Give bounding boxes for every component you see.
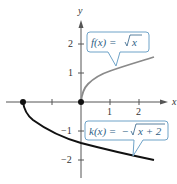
y-tick-label-neg1: −1	[61, 125, 72, 136]
f-callout-var: x	[131, 36, 137, 48]
k-endpoint-marker	[20, 99, 26, 105]
f-curve	[81, 57, 154, 102]
graph: x y 1 2 2 1 −1 −2 f(x) = x k(x) = − x + …	[0, 0, 177, 184]
x-tick-label-2: 2	[136, 106, 141, 117]
y-tick-label-1: 1	[68, 67, 73, 78]
y-tick-label-neg2: −2	[61, 154, 72, 165]
x-axis-arrow-icon	[160, 100, 168, 105]
y-axis-label: y	[77, 5, 83, 16]
k-callout-minus: −	[122, 125, 128, 137]
f-endpoint-marker	[78, 99, 84, 105]
y-tick-label-2: 2	[68, 38, 73, 49]
x-axis-label: x	[171, 96, 177, 107]
k-callout-label: k(x) =	[89, 125, 116, 138]
k-callout-var: x + 2	[137, 125, 162, 137]
k-callout: k(x) = − x + 2	[85, 121, 168, 156]
x-tick-label-1: 1	[107, 106, 112, 117]
y-axis-arrow-icon	[79, 20, 84, 28]
f-callout-label: f(x) =	[91, 36, 116, 49]
